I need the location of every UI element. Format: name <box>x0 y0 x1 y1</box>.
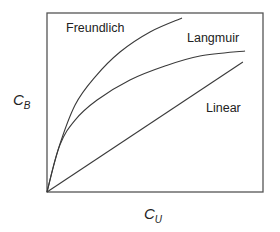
annotation-linear: Linear <box>206 101 241 115</box>
y-axis-label-main: C <box>13 91 24 108</box>
x-axis-label: CU <box>144 205 163 225</box>
series-line-linear <box>47 62 243 192</box>
annotation-langmuir: Langmuir <box>187 31 239 45</box>
annotation-freundlich: Freundlich <box>66 21 124 35</box>
x-axis-label-sub: U <box>155 214 163 225</box>
series-line-freundlich <box>47 18 182 192</box>
isotherm-chart: Freundlich Langmuir Linear CB CU <box>0 0 280 232</box>
y-axis-label: CB <box>13 91 31 111</box>
x-axis-label-main: C <box>144 205 155 222</box>
y-axis-label-sub: B <box>24 100 31 111</box>
series-line-langmuir <box>47 51 245 192</box>
